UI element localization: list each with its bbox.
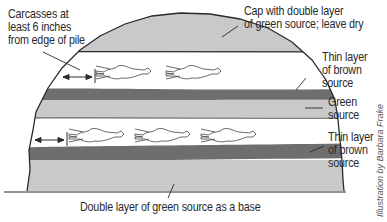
label-base: Double layer of green source as a base	[80, 201, 261, 214]
label-cap: Cap with double layer of green source; l…	[244, 5, 363, 31]
label-green-middle: Green source	[328, 96, 359, 122]
label-thin-brown-lower: Thin layer of brown source	[328, 131, 373, 170]
compost-pile-diagram: Carcasses at least 6 inches from edge of…	[0, 0, 387, 222]
label-carcass-distance: Carcasses at least 6 inches from edge of…	[8, 8, 85, 47]
label-thin-brown-upper: Thin layer of brown source	[322, 51, 367, 90]
illustration-credit: Illustration by Barbara Frake	[375, 104, 385, 217]
